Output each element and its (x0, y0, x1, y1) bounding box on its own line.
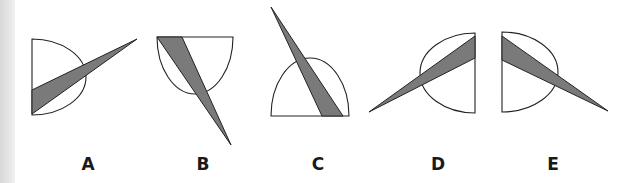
option-label-e: E (538, 154, 568, 174)
option-label-b: B (188, 154, 218, 174)
option-label-a: A (73, 154, 103, 174)
figure-options-diagram: A B C D E (0, 0, 638, 183)
wedge-triangle (369, 36, 475, 112)
option-label-d: D (423, 154, 453, 174)
option-figure-b[interactable] (157, 37, 233, 145)
option-figure-c[interactable] (271, 7, 349, 116)
wedge-triangle (271, 7, 343, 116)
wedge-triangle (502, 36, 608, 111)
wedge-triangle (32, 39, 137, 114)
option-figure-a[interactable] (32, 39, 137, 115)
option-figure-d[interactable] (369, 33, 475, 113)
option-label-c: C (303, 154, 333, 174)
option-figure-e[interactable] (502, 32, 608, 112)
wedge-triangle (157, 37, 231, 145)
